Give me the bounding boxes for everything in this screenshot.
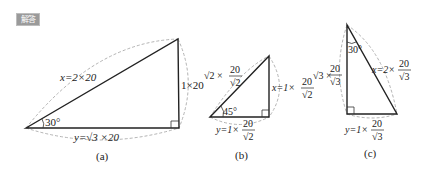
base-label-a: y=√3 ×20 [73, 131, 120, 143]
hypotenuse-den-c: √3 [399, 71, 410, 82]
hypotenuse-num-c: 20 [399, 58, 409, 69]
angle-label-c: 30° [348, 44, 362, 55]
base-num-b: 20 [243, 118, 253, 129]
caption-c: (c) [364, 147, 377, 160]
hypotenuse-den-b: √2 [230, 77, 241, 88]
hypotenuse-num-b: 20 [230, 64, 240, 75]
vertical-prefix-b: x=1× [271, 82, 295, 93]
base-den-c: √3 [372, 131, 383, 142]
caption-b: (b) [235, 149, 248, 162]
triangles-diagram: 30° x=2×20 1×20 y=√3 ×20 (a) 45° √2 × 20… [0, 0, 433, 172]
base-den-b: √2 [243, 131, 254, 142]
vertical-label-a: 1×20 [181, 79, 204, 91]
vertical-num-b: 20 [302, 76, 312, 87]
vertical-den-b: √2 [302, 89, 313, 100]
vertical-prefix-c: √3 × [313, 70, 332, 81]
base-prefix-b: y=1× [215, 124, 239, 135]
vertical-den-c: √3 [330, 76, 341, 87]
vertical-num-c: 20 [330, 63, 340, 74]
hypotenuse-label-a: x=2×20 [59, 71, 97, 83]
caption-a: (a) [96, 150, 109, 163]
base-num-c: 20 [372, 118, 382, 129]
angle-label-a: 30° [45, 116, 60, 128]
hypotenuse-prefix-b: √2 × [204, 70, 223, 81]
triangle-b: 45° √2 × 20 √2 x=1× 20 √2 y=1× 20 √2 (b) [204, 56, 314, 162]
hypotenuse-prefix-c: x=2× [371, 64, 395, 75]
triangle-c: 30° √3 × 20 √3 x=2× 20 √3 y=1× 20 √3 (c) [313, 25, 411, 160]
triangle-a: 30° x=2×20 1×20 y=√3 ×20 (a) [26, 39, 204, 163]
base-prefix-c: y=1× [344, 124, 368, 135]
angle-label-b: 45° [223, 106, 237, 117]
